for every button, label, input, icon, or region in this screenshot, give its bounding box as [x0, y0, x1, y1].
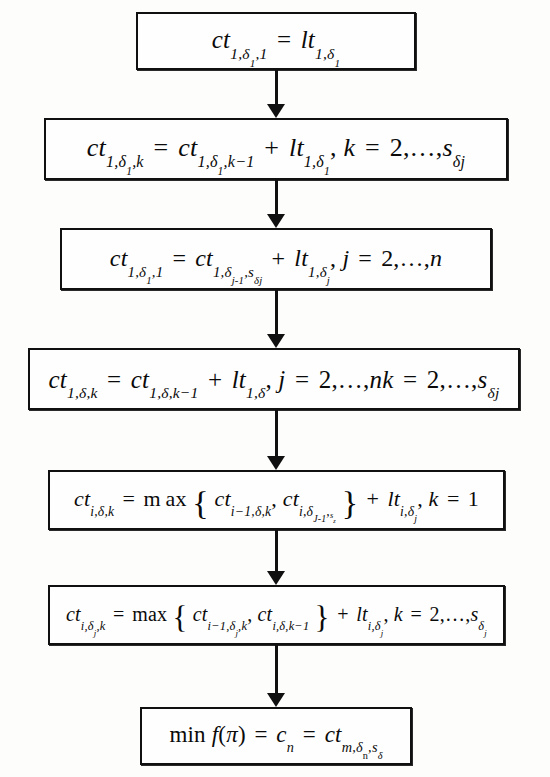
flowchart-connector-1 — [262, 70, 290, 118]
flowchart-connector-5 — [262, 530, 290, 585]
flowchart-connector-2 — [262, 180, 290, 228]
flowchart-connector-4 — [262, 410, 290, 470]
node-7-formula: min f(π) = cn = ctm,δn,sδ — [169, 723, 382, 748]
flowchart-connector-3 — [262, 290, 290, 348]
flowchart-canvas: ct1,δ1,1 = lt1,δ1 ct1,δ1,k = ct1,δ1,k−1 … — [0, 0, 550, 777]
node-6-formula: cti,δj,k = max { cti−1,δj,k, cti,δ,k−1 }… — [66, 604, 487, 626]
flowchart-node-7[interactable]: min f(π) = cn = ctm,δn,sδ — [140, 707, 412, 765]
node-4-formula: ct1,δ,k = ct1,δ,k−1 + lt1,δ, j = 2,…,nk … — [49, 367, 500, 392]
flowchart-connector-6 — [262, 645, 290, 707]
node-5-formula: cti,δ,k = m ax { cti−1,δ,k, cti,δJ-1,sz … — [74, 488, 479, 512]
flowchart-node-2[interactable]: ct1,δ1,k = ct1,δ1,k−1 + lt1,δ1, k = 2,…,… — [44, 118, 508, 180]
flowchart-node-4[interactable]: ct1,δ,k = ct1,δ,k−1 + lt1,δ, j = 2,…,nk … — [28, 348, 520, 410]
node-3-formula: ct1,δ1,1 = ct1,δj-1,sδj + lt1,δj, j = 2,… — [110, 246, 442, 272]
node-1-formula: ct1,δ1,1 = lt1,δ1 — [212, 27, 340, 54]
flowchart-node-6[interactable]: cti,δj,k = max { cti−1,δj,k, cti,δ,k−1 }… — [48, 585, 505, 645]
node-2-formula: ct1,δ1,k = ct1,δ1,k−1 + lt1,δ1, k = 2,…,… — [87, 135, 465, 163]
flowchart-node-3[interactable]: ct1,δ1,1 = ct1,δj-1,sδj + lt1,δj, j = 2,… — [60, 228, 492, 290]
flowchart-node-5[interactable]: cti,δ,k = m ax { cti−1,δ,k, cti,δJ-1,sz … — [48, 470, 505, 530]
flowchart-node-1[interactable]: ct1,δ1,1 = lt1,δ1 — [136, 12, 416, 70]
